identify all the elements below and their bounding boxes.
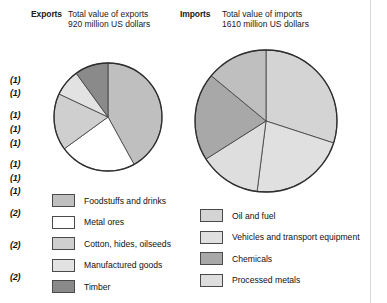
exports-heading: Exports <box>31 9 62 19</box>
legend-swatch-oil-and-fuel <box>200 209 223 222</box>
imports-pie-chart <box>193 48 339 194</box>
exports-subtitle: Total value of exports 920 million US do… <box>68 9 150 29</box>
legend-label-foodstuffs: Foodstuffs and drinks <box>84 196 166 206</box>
legend-swatch-foodstuffs <box>52 194 75 207</box>
margin-marker: (2) <box>10 208 20 218</box>
page-frame-border <box>370 0 371 303</box>
legend-label-timber: Timber <box>84 282 110 292</box>
legend-label-chemicals: Chemicals <box>232 254 272 264</box>
legend-exports-item-foodstuffs: Foodstuffs and drinks <box>52 194 166 207</box>
legend-imports-item-oil-and-fuel: Oil and fuel <box>200 209 275 222</box>
exports-subtitle-line2: 920 million US dollars <box>68 19 150 29</box>
margin-marker: (2) <box>10 240 20 250</box>
legend-swatch-processed-metals <box>200 274 223 287</box>
legend-imports-item-chemicals: Chemicals <box>200 252 272 265</box>
margin-marker: (1) <box>10 124 20 134</box>
exports-subtitle-line1: Total value of exports <box>68 9 150 19</box>
legend-exports-item-cotton-hides-oilseeds: Cotton, hides, oilseeds <box>52 237 171 250</box>
legend-swatch-vehicles-transport <box>200 231 223 244</box>
legend-exports-item-metal-ores: Metal ores <box>52 216 124 229</box>
imports-subtitle-line1: Total value of imports <box>222 9 309 19</box>
legend-swatch-chemicals <box>200 252 223 265</box>
margin-marker: (1) <box>10 159 20 169</box>
legend-exports-item-manufactured-goods: Manufactured goods <box>52 259 162 272</box>
margin-marker: (1) <box>10 138 20 148</box>
margin-marker: (2) <box>10 272 20 282</box>
margin-marker: (1) <box>10 186 20 196</box>
legend-exports-item-timber: Timber <box>52 280 110 293</box>
legend-imports-item-processed-metals: Processed metals <box>200 274 300 287</box>
chart-page: Exports Total value of exports 920 milli… <box>0 0 387 303</box>
legend-swatch-timber <box>52 280 75 293</box>
legend-label-processed-metals: Processed metals <box>232 275 300 285</box>
legend-label-oil-and-fuel: Oil and fuel <box>232 211 275 221</box>
margin-marker: (1) <box>10 173 20 183</box>
legend-label-manufactured-goods: Manufactured goods <box>84 260 162 270</box>
legend-swatch-metal-ores <box>52 216 75 229</box>
imports-heading: Imports <box>180 9 210 19</box>
margin-marker: (1) <box>10 75 20 85</box>
imports-subtitle-line2: 1610 million US dollars <box>222 19 309 29</box>
imports-subtitle: Total value of imports 1610 million US d… <box>222 9 309 29</box>
legend-imports-item-vehicles-transport: Vehicles and transport equipment <box>200 231 360 244</box>
margin-marker: (1) <box>10 88 20 98</box>
legend-swatch-manufactured-goods <box>52 259 75 272</box>
legend-label-cotton-hides-oilseeds: Cotton, hides, oilseeds <box>84 239 171 249</box>
margin-marker: (1) <box>10 110 20 120</box>
legend-swatch-cotton-hides-oilseeds <box>52 237 75 250</box>
legend-label-metal-ores: Metal ores <box>84 217 124 227</box>
exports-pie-chart <box>52 61 164 173</box>
legend-label-vehicles-transport: Vehicles and transport equipment <box>232 232 360 242</box>
